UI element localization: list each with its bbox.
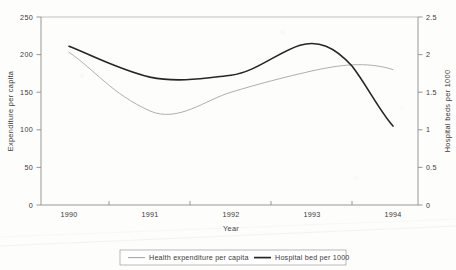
y-axis-right-title: Hospital beds per 1000 (443, 70, 452, 153)
y-left-ticklabel-50: 50 (24, 163, 33, 172)
y-left-ticklabel-150: 150 (20, 88, 33, 97)
y-left-ticklabel-250: 250 (20, 13, 33, 22)
x-axis: 1990 1991 1992 1993 1994 Year (60, 201, 401, 233)
plot-frame (41, 17, 418, 205)
x-ticklabel-1992: 1992 (222, 210, 239, 219)
legend-label-hospital-bed: Hospital bed per 1000 (275, 253, 350, 262)
scan-artifact-line-lower (0, 219, 456, 237)
line-chart-svg: 0 50 100 150 200 250 Expenditure per cap… (0, 0, 456, 270)
legend-label-health-expenditure: Health expenditure per capita (149, 253, 249, 262)
chart-legend: Health expenditure per capita Hospital b… (120, 250, 350, 265)
y-axis-right: 0 0.5 1 1.5 2 2.5 Hospital beds per 1000 (418, 13, 452, 210)
y-left-tick-marks (37, 17, 42, 205)
y-right-ticklabel-2: 2 (426, 50, 430, 59)
y-left-ticklabel-0: 0 (29, 201, 33, 210)
x-ticklabel-1993: 1993 (303, 210, 320, 219)
y-right-ticklabel-2p5: 2.5 (426, 13, 437, 22)
series-line-hospital-bed-per-1000 (69, 43, 393, 126)
x-tick-marks (109, 201, 352, 205)
y-right-ticklabel-1p5: 1.5 (426, 88, 437, 97)
y-right-ticklabel-0: 0 (426, 201, 430, 210)
x-axis-title: Year (223, 224, 239, 233)
y-right-ticklabel-0p5: 0.5 (426, 163, 437, 172)
y-axis-left-title: Expenditure per capita (6, 70, 15, 151)
y-left-ticklabel-200: 200 (20, 50, 33, 59)
x-ticklabel-1991: 1991 (141, 210, 158, 219)
x-ticklabel-1990: 1990 (60, 210, 77, 219)
series-line-health-expenditure-per-capita (69, 52, 393, 114)
y-right-ticklabel-1: 1 (426, 125, 430, 134)
chart-figure: 0 50 100 150 200 250 Expenditure per cap… (0, 0, 456, 270)
y-right-tick-marks (418, 17, 423, 205)
y-left-ticklabel-100: 100 (20, 125, 33, 134)
x-ticklabel-1994: 1994 (384, 210, 401, 219)
y-axis-left: 0 50 100 150 200 250 Expenditure per cap… (6, 13, 41, 210)
